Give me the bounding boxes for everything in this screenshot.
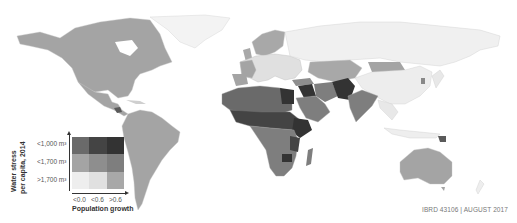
region-tasmania (441, 187, 445, 191)
map-credit: IBRD 43106 | AUGUST 2017 (422, 206, 508, 213)
region-india (348, 90, 378, 122)
region-east-africa (290, 136, 300, 152)
region-korea (421, 78, 425, 84)
region-russia (285, 22, 500, 66)
region-zimbabwe (282, 154, 292, 162)
region-png (438, 136, 446, 142)
region-central-africa (250, 126, 298, 176)
region-iberia (232, 74, 248, 86)
region-iraq-syria (298, 84, 316, 98)
region-sahel (230, 110, 300, 130)
region-madagascar (306, 148, 313, 166)
world-map (0, 0, 517, 223)
region-central-asia (308, 60, 362, 82)
region-new-zealand (476, 180, 484, 194)
region-north-america (17, 18, 172, 98)
region-japan (432, 70, 444, 88)
region-indonesia (384, 128, 440, 138)
region-egypt (280, 88, 294, 104)
region-scandinavia (252, 30, 285, 56)
region-caribbean (126, 100, 146, 104)
region-south-america (122, 110, 180, 210)
region-australia (400, 148, 452, 184)
